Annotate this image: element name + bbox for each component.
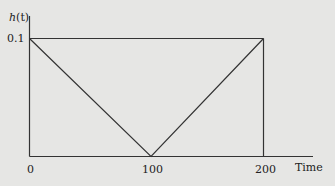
triangle-series <box>30 39 264 157</box>
y-axis-label: h(t) <box>9 12 29 23</box>
x-axis-label: Time <box>295 162 323 173</box>
x-tick-100: 100 <box>142 164 163 175</box>
y-axis-label-rest: (t) <box>16 11 29 24</box>
x-tick-200: 200 <box>255 164 276 175</box>
chart-plot <box>0 0 335 186</box>
y-tick-0.1: 0.1 <box>7 33 25 44</box>
x-tick-0: 0 <box>27 164 34 175</box>
